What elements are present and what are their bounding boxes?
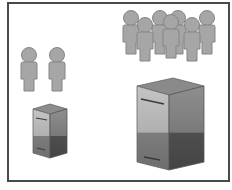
person-icon xyxy=(137,18,153,62)
large-server-icon xyxy=(137,78,204,170)
diagram-canvas xyxy=(0,0,232,190)
large-group-people xyxy=(123,11,215,62)
person-icon xyxy=(21,48,37,92)
person-icon xyxy=(184,18,200,62)
person-icon xyxy=(199,11,215,55)
person-icon xyxy=(49,48,65,92)
small-server-icon xyxy=(33,104,67,158)
small-group-people xyxy=(21,48,65,92)
